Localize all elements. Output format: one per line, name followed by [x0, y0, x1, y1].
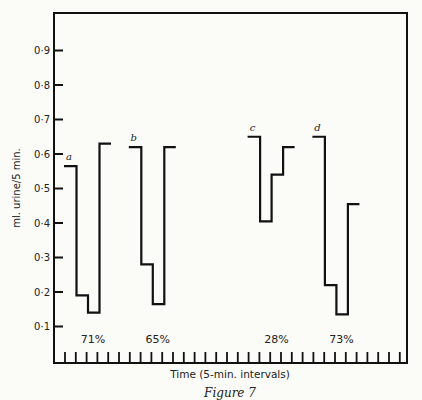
y-tick-label: 0·8	[34, 80, 50, 91]
y-tick-label: 0·6	[34, 149, 50, 160]
y-axis-label: ml. urine/5 min.	[11, 148, 22, 228]
percent-label: 71%	[81, 333, 105, 346]
step-line	[248, 137, 295, 222]
y-tick-label: 0·3	[34, 252, 50, 263]
x-axis	[65, 352, 400, 363]
step-line	[64, 144, 111, 313]
y-tick-label: 0·9	[34, 45, 50, 56]
series-c: c28%	[248, 122, 295, 346]
step-line	[129, 147, 176, 304]
series-letter: b	[131, 132, 137, 143]
step-line	[312, 137, 359, 315]
series-letter: a	[66, 151, 72, 162]
y-tick-label: 0·5	[34, 183, 50, 194]
figure-caption: Figure 7	[203, 386, 256, 400]
plot-frame	[54, 13, 407, 363]
percent-label: 28%	[264, 333, 288, 346]
y-tick-label: 0·7	[34, 114, 50, 125]
series-group: a71%b65%c28%d73%	[64, 122, 359, 346]
y-tick-label: 0·2	[34, 287, 50, 298]
series-letter: d	[314, 122, 320, 133]
percent-label: 65%	[146, 333, 170, 346]
series-letter: c	[250, 122, 256, 133]
series-b: b65%	[129, 132, 176, 346]
y-axis: 0·10·20·30·40·50·60·70·80·9	[34, 45, 63, 332]
y-tick-label: 0·4	[34, 218, 50, 229]
percent-label: 73%	[329, 333, 353, 346]
y-tick-label: 0·1	[34, 321, 50, 332]
series-d: d73%	[312, 122, 359, 346]
x-axis-label: Time (5-min. intervals)	[169, 368, 290, 380]
figure-7-chart: 0·10·20·30·40·50·60·70·80·9 a71%b65%c28%…	[0, 0, 422, 400]
series-a: a71%	[64, 144, 111, 346]
